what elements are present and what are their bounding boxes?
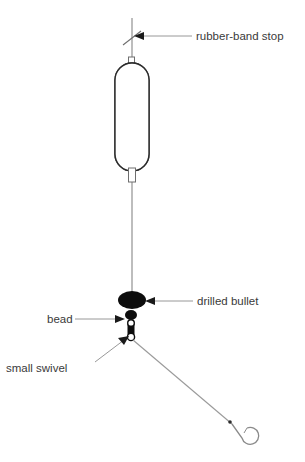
arrow-head-bead [115, 315, 125, 323]
leader-line [133, 340, 232, 424]
swivel-ring-upper [128, 320, 135, 327]
label-drilled-bullet: drilled bullet [197, 295, 259, 307]
callout-bead: bead [47, 313, 125, 325]
drilled-bullet-weight [118, 291, 146, 309]
slip-float-group [113, 57, 151, 182]
hook-eye [228, 420, 232, 424]
label-bead: bead [47, 313, 73, 325]
callout-small-swivel: small swivel [6, 336, 129, 374]
swivel-ring-lower [127, 333, 134, 340]
bead-group [125, 310, 137, 320]
label-rubber-band-stop: rubber-band stop [196, 30, 284, 42]
small-swivel-group [127, 320, 134, 341]
float-body-outline [115, 63, 149, 171]
callout-line-small-swivel [95, 340, 124, 362]
float-bottom-stem [129, 168, 136, 182]
bead [125, 310, 137, 320]
hook-bend [232, 424, 259, 444]
diagram-canvas: rubber-band stop [0, 0, 305, 462]
callout-drilled-bullet: drilled bullet [145, 295, 259, 307]
leader-and-hook-group [133, 340, 259, 444]
label-small-swivel: small swivel [6, 362, 67, 374]
drilled-bullet-group [118, 291, 146, 309]
arrow-head-drilled-bullet [145, 297, 155, 305]
hook-barb [244, 428, 247, 433]
callout-rubber-band-stop: rubber-band stop [134, 30, 284, 42]
fishing-rig-diagram: rubber-band stop [0, 0, 305, 462]
